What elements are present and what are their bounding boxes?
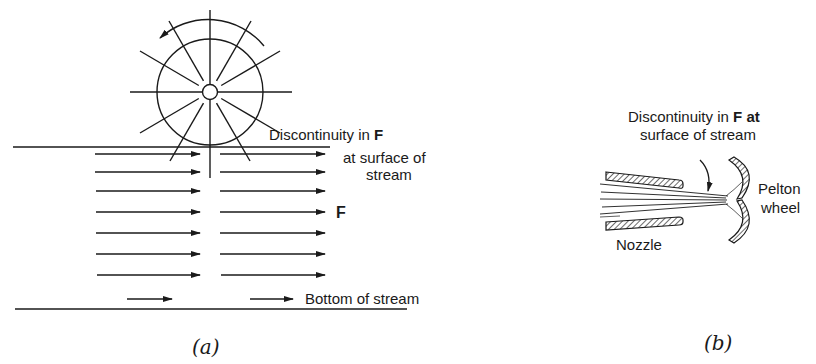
label-field-F: F	[336, 204, 346, 221]
label-pelton-1: Pelton	[758, 180, 801, 197]
label-discontinuity-a: Discontinuity in F	[269, 126, 383, 143]
label-nozzle: Nozzle	[616, 236, 662, 253]
label-bottom-of-stream: Bottom of stream	[305, 290, 419, 307]
label-text: Discontinuity in	[628, 108, 729, 125]
label-stream-a: stream	[366, 166, 412, 183]
label-discontinuity-b: Discontinuity in F at	[628, 108, 760, 125]
paddle-wheel	[130, 10, 292, 178]
label-surface-a: at surface of	[343, 149, 426, 166]
label-text-at: at	[746, 108, 759, 125]
label-text: Discontinuity in	[269, 126, 370, 143]
nozzle	[606, 172, 683, 230]
wheel-hub	[203, 85, 218, 100]
field-symbol: F	[374, 126, 383, 143]
discontinuity-pointer-arrow-icon	[700, 160, 709, 191]
caption-a: (a)	[192, 335, 220, 359]
caption-b: (b)	[704, 331, 732, 355]
label-surface-b: surface of stream	[640, 126, 756, 143]
label-pelton-2: wheel	[761, 199, 800, 216]
field-symbol: F	[733, 108, 742, 125]
pelton-wheel	[729, 157, 749, 243]
